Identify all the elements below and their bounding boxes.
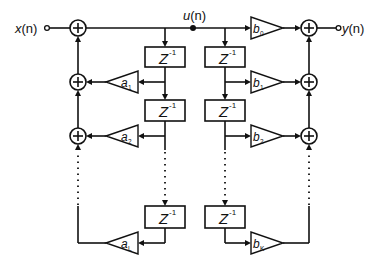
arrow-left-icon	[86, 79, 92, 85]
delay-left-L: Z -1	[145, 206, 185, 228]
svg-text:Z: Z	[218, 103, 229, 120]
delay-left-1: Z -1	[145, 47, 185, 67]
delay-right-2: Z -1	[205, 100, 245, 121]
svg-text:-1: -1	[169, 48, 177, 57]
arrow-left-icon	[138, 240, 144, 246]
svg-text:0: 0	[260, 30, 264, 37]
arrow-right-icon	[245, 133, 251, 139]
delay-right-K: Z -1	[205, 206, 245, 228]
arrow-left-icon	[138, 79, 144, 85]
gain-a1: a 1	[106, 71, 138, 93]
u-node	[190, 25, 196, 31]
arrow-down-icon	[222, 41, 228, 47]
arrow-down-icon	[162, 41, 168, 47]
svg-text:-1: -1	[229, 48, 237, 57]
adder-feedback-2	[70, 128, 86, 144]
svg-text:L: L	[128, 245, 132, 252]
svg-text:2: 2	[128, 138, 132, 145]
iir-filter-diagram: x(n) u(n) Z -1 Z -1	[0, 0, 380, 270]
svg-text:-1: -1	[229, 208, 237, 217]
arrow-up-icon	[75, 144, 81, 150]
arrow-right-icon	[245, 79, 251, 85]
svg-text:Z: Z	[218, 210, 229, 227]
arrow-right-icon	[245, 240, 251, 246]
svg-text:a: a	[121, 76, 128, 90]
svg-text:-1: -1	[229, 101, 237, 110]
svg-text:1: 1	[128, 84, 132, 91]
adder-input	[70, 20, 86, 36]
arrow-up-icon	[306, 90, 312, 96]
svg-text:Z: Z	[158, 103, 169, 120]
arrow-down-icon	[162, 200, 168, 206]
svg-text:Z: Z	[218, 50, 229, 67]
gain-bK: b K	[251, 232, 283, 254]
svg-text:b: b	[253, 22, 260, 36]
output-terminal	[336, 26, 341, 31]
svg-text:a: a	[121, 237, 128, 251]
svg-text:2: 2	[260, 138, 264, 145]
input-terminal	[45, 26, 50, 31]
gain-a2: a 2	[106, 125, 138, 147]
u-label: u(n)	[183, 8, 206, 23]
output-label: y(n)	[341, 21, 364, 36]
arrow-up-icon	[306, 36, 312, 42]
gain-b1: b 1	[251, 71, 283, 93]
arrow-down-icon	[162, 94, 168, 100]
arrow-down-icon	[222, 94, 228, 100]
svg-text:Z: Z	[158, 210, 169, 227]
svg-text:K: K	[260, 245, 265, 252]
delay-left-2: Z -1	[145, 100, 185, 121]
arrow-right-icon	[245, 25, 251, 31]
svg-text:Z: Z	[158, 50, 169, 67]
svg-text:b: b	[253, 76, 260, 90]
gain-b2: b 2	[251, 125, 283, 147]
gain-aL: a L	[106, 232, 138, 254]
delay-right-1: Z -1	[205, 47, 245, 67]
arrow-right-icon	[295, 25, 301, 31]
adder-output	[301, 20, 317, 36]
svg-text:-1: -1	[169, 208, 177, 217]
arrow-left-icon	[86, 133, 92, 139]
svg-text:-1: -1	[169, 101, 177, 110]
input-label: x(n)	[14, 21, 37, 36]
adder-feedforward-1	[301, 74, 317, 90]
arrow-right-icon	[295, 79, 301, 85]
svg-text:a: a	[121, 130, 128, 144]
arrow-up-icon	[75, 36, 81, 42]
svg-text:b: b	[253, 130, 260, 144]
adder-feedback-1	[70, 74, 86, 90]
arrow-right-icon	[295, 133, 301, 139]
adder-feedforward-2	[301, 128, 317, 144]
arrow-left-icon	[138, 133, 144, 139]
arrow-up-icon	[75, 90, 81, 96]
gain-b0: b 0	[251, 17, 283, 39]
svg-text:1: 1	[260, 84, 264, 91]
arrow-up-icon	[306, 144, 312, 150]
arrow-down-icon	[222, 200, 228, 206]
svg-text:b: b	[253, 237, 260, 251]
